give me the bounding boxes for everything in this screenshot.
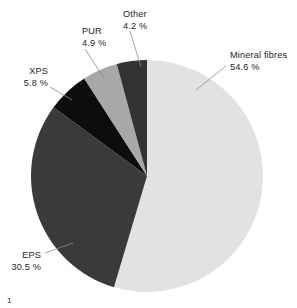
slice-label-eps: EPS	[22, 250, 41, 260]
pie-chart-svg: Mineral fibres 54.6 % EPS 30.5 % XPS 5.8…	[0, 0, 297, 308]
slice-label-other: Other	[123, 9, 147, 19]
slice-label-mineral-fibres: Mineral fibres	[230, 50, 287, 60]
slice-value-other: 4.2 %	[123, 21, 147, 31]
pie-chart-figure: Mineral fibres 54.6 % EPS 30.5 % XPS 5.8…	[0, 0, 297, 308]
slice-value-xps: 5.8 %	[24, 78, 48, 88]
pie-slices-group	[31, 60, 263, 292]
slice-label-pur: PUR	[82, 26, 102, 36]
footnote-marker: 1	[7, 296, 12, 305]
slice-label-xps: XPS	[29, 66, 48, 76]
slice-value-mineral-fibres: 54.6 %	[230, 62, 260, 72]
slice-value-pur: 4.9 %	[82, 38, 106, 48]
slice-value-eps: 30.5 %	[11, 262, 41, 272]
